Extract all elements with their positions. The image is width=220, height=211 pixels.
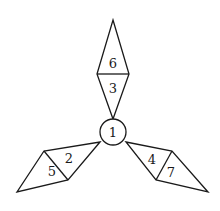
label-3: 3 <box>109 81 117 96</box>
label-4: 4 <box>148 152 156 167</box>
label-5: 5 <box>48 164 56 179</box>
center-node: 1 <box>100 119 126 145</box>
label-7: 7 <box>167 165 175 180</box>
label-2: 2 <box>65 151 73 166</box>
label-1: 1 <box>109 125 117 140</box>
left-rhombus <box>17 142 100 192</box>
label-6: 6 <box>109 56 117 71</box>
three-arm-diagram: 6 3 2 5 4 7 1 <box>0 0 220 211</box>
left-arm: 2 5 <box>17 142 100 192</box>
top-arm: 6 3 <box>97 20 129 119</box>
right-arm: 4 7 <box>126 142 208 192</box>
